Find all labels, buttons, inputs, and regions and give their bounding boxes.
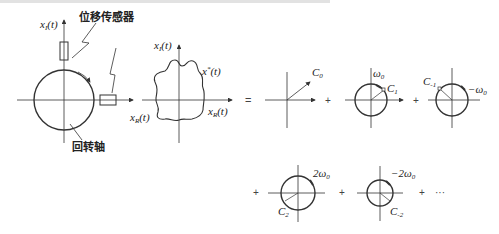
c1-freq-label: ω0	[373, 67, 385, 81]
term-c-minus-1	[428, 68, 480, 128]
axis-leader	[70, 124, 82, 140]
plus-sign: +	[413, 95, 419, 106]
plus-sign: +	[419, 187, 425, 198]
ellipsis: ···	[435, 187, 445, 198]
c-minus-1-label: C-1	[423, 75, 436, 89]
axis-label: 回转轴	[72, 140, 105, 154]
equals-sign: =	[245, 94, 251, 106]
c1-label: C1	[387, 82, 398, 96]
middle-x-axis-right-label: xR(t)	[207, 105, 228, 119]
left-y-axis-label: xI(t)	[39, 18, 58, 32]
rotation-error-diagram: xI(t) 位移传感器 xR(t) 回转轴 xI(t) x*(t) xR(t) …	[0, 0, 499, 234]
sensor-leader-1	[72, 23, 96, 58]
c-minus-2-freq-label: −2ω0	[391, 167, 416, 181]
middle-y-axis-label: xI(t)	[153, 39, 172, 53]
c2-freq-label: 2ω0	[313, 167, 330, 181]
sensor-leader-2	[110, 48, 116, 93]
c0-label: C0	[312, 66, 323, 80]
c0-vector	[287, 82, 310, 100]
left-x-axis-label: xR(t)	[129, 111, 150, 125]
c-minus-2-label: C-2	[390, 205, 404, 219]
c-minus-1-freq-label: −ω0	[468, 83, 487, 97]
error-motion-plot	[142, 45, 232, 143]
sensor-label: 位移传感器	[79, 10, 135, 24]
plus-sign: +	[325, 95, 331, 106]
curve-label: x*(t)	[201, 65, 221, 78]
spindle-sensor-plot	[17, 20, 133, 143]
plus-sign: +	[339, 187, 345, 198]
term-c0	[265, 72, 315, 128]
plus-sign: +	[253, 187, 259, 198]
